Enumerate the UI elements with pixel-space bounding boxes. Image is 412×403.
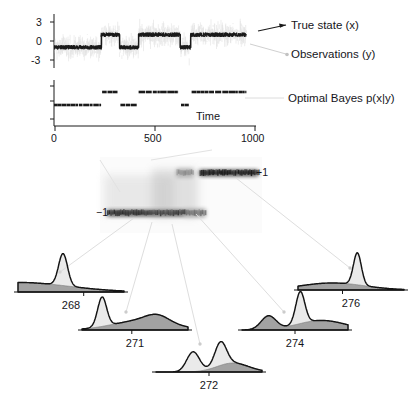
heatmap-bands (100, 157, 262, 233)
legend-optimal-bayes: Optimal Bayes p(x|y) (288, 92, 395, 104)
legend-true-state: True state (x) (291, 19, 359, 31)
observations-cloud (54, 19, 246, 66)
bayes-panel-axis (50, 80, 54, 126)
bayesian-filtering-figure: 3 0 -3 True state (x) Observations (y) O… (0, 0, 412, 403)
ytick-0: 0 (36, 35, 42, 47)
true-state-arrow (258, 23, 286, 31)
xtick-1000: 1000 (241, 132, 264, 144)
observations-pointer (250, 44, 289, 56)
top-panel-yaxis (50, 14, 54, 68)
time-axis-label: Time (196, 110, 220, 122)
time-axis (54, 126, 256, 131)
posterior-heatmap-svg (0, 145, 412, 245)
ytick-minus3: -3 (31, 54, 40, 66)
snapshot-276-plot (292, 248, 410, 300)
snapshot-274-label: 274 (236, 337, 354, 349)
optimal-bayes-trace (54, 92, 246, 105)
xtick-500: 500 (144, 132, 162, 144)
xtick-0: 0 (51, 132, 57, 144)
heatmap-label-minus-one: −1 (96, 206, 108, 218)
snapshot-276 (292, 248, 410, 300)
heatmap-label-plus-one: +1 (256, 166, 268, 178)
snapshot-272-label: 272 (150, 379, 268, 391)
snapshot-276-label: 276 (292, 297, 410, 309)
ytick-3: 3 (36, 16, 42, 28)
legend-observations: Observations (y) (291, 48, 375, 60)
